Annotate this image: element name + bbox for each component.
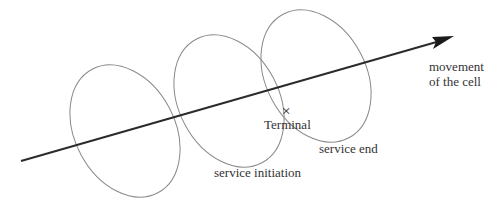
movement-label-line2: of the cell <box>429 74 484 89</box>
movement-label-line1: movement <box>429 59 484 74</box>
terminal-label: Terminal <box>264 117 311 132</box>
movement-label: movement of the cell <box>429 59 484 89</box>
cell-ellipse-3 <box>239 0 393 161</box>
service-end-label: service end <box>319 141 378 156</box>
cell-ellipse-1 <box>48 46 202 199</box>
service-initiation-label: service initiation <box>214 165 301 180</box>
